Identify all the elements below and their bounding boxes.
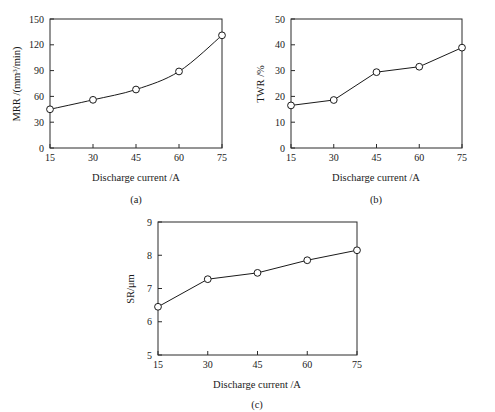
x-ticklabel: 45: [253, 359, 263, 370]
data-point: [373, 69, 380, 76]
x-ticklabel: 75: [352, 359, 362, 370]
data-point: [133, 86, 140, 93]
y-ticklabels-c: 56789: [147, 217, 152, 361]
x-ticklabel: 60: [414, 152, 424, 163]
data-point: [330, 97, 337, 104]
data-point: [204, 276, 211, 283]
y-axis-title-c: SR/μm: [125, 274, 136, 304]
caption-c: (c): [251, 399, 263, 411]
y-ticklabel: 30: [34, 117, 44, 128]
y-ticklabel: 9: [147, 217, 152, 228]
x-ticks-b: [291, 144, 462, 148]
axes-frame-a: [50, 19, 222, 148]
y-ticks-b: [291, 19, 295, 148]
caption-a: (a): [130, 194, 142, 206]
x-ticklabel: 30: [329, 152, 339, 163]
y-ticklabel: 8: [147, 250, 152, 261]
x-ticklabel: 15: [45, 152, 55, 163]
y-ticklabel: 150: [29, 14, 44, 25]
data-point: [176, 68, 183, 75]
data-point: [304, 257, 311, 264]
x-axis-title-c: Discharge current /A: [213, 379, 301, 390]
plot-area-c: [155, 222, 361, 355]
x-ticklabel: 15: [153, 359, 163, 370]
y-ticklabel: 10: [275, 117, 285, 128]
y-ticklabel: 120: [29, 39, 44, 50]
data-curve-c: [158, 250, 357, 307]
data-point: [155, 303, 162, 310]
x-ticklabel: 75: [457, 152, 467, 163]
y-ticklabels-a: 0306090120150: [29, 14, 44, 154]
x-ticklabel: 60: [302, 359, 312, 370]
data-point: [416, 63, 423, 70]
data-curve-b: [291, 48, 462, 106]
y-axis-title-b: TWR /%: [255, 65, 266, 103]
x-ticklabel: 45: [131, 152, 141, 163]
data-curve-a: [50, 35, 222, 109]
data-markers-b: [288, 44, 466, 109]
y-ticks-a: [50, 19, 54, 148]
y-ticklabel: 5: [147, 350, 152, 361]
y-ticks-c: [158, 222, 162, 355]
y-ticklabels-b: 01020304050: [275, 14, 285, 154]
y-ticklabel: 0: [39, 143, 44, 154]
plot-area-b: [288, 19, 466, 148]
y-ticklabel: 30: [275, 65, 285, 76]
y-ticklabel: 40: [275, 39, 285, 50]
axes-frame-c: [158, 222, 357, 355]
y-ticklabel: 6: [147, 316, 152, 327]
subplot-c: 56789 1530456075 Discharge current /A SR…: [120, 208, 375, 412]
x-ticks-c: [158, 351, 357, 355]
x-axis-title-a: Discharge current /A: [92, 172, 180, 183]
x-ticklabels-c: 1530456075: [153, 359, 362, 370]
chart-c: 56789 1530456075 Discharge current /A SR…: [120, 208, 375, 412]
data-point: [254, 269, 261, 276]
axes-frame-b: [291, 19, 462, 148]
x-ticklabel: 15: [286, 152, 296, 163]
figure-container: 0306090120150 1530456075 Discharge curre…: [0, 0, 495, 412]
data-point: [288, 102, 295, 109]
y-ticklabel: 0: [280, 143, 285, 154]
caption-b: (b): [370, 194, 383, 206]
x-ticks-a: [50, 144, 222, 148]
y-ticklabel: 60: [34, 91, 44, 102]
x-axis-title-b: Discharge current /A: [332, 172, 420, 183]
data-point: [219, 32, 226, 39]
y-ticklabel: 7: [147, 283, 152, 294]
x-ticklabel: 60: [174, 152, 184, 163]
x-ticklabels-b: 1530456075: [286, 152, 467, 163]
data-point: [354, 247, 361, 254]
x-ticklabel: 45: [372, 152, 382, 163]
data-point: [459, 44, 466, 51]
chart-a: 0306090120150 1530456075 Discharge curre…: [0, 0, 248, 210]
data-point: [47, 106, 54, 113]
y-ticklabel: 20: [275, 91, 285, 102]
x-ticklabel: 30: [203, 359, 213, 370]
subplot-b: 01020304050 1530456075 Discharge current…: [248, 0, 495, 210]
y-axis-title-a: MRR /(mm3/min): [11, 46, 23, 121]
data-markers-a: [47, 32, 226, 113]
data-markers-c: [155, 247, 361, 310]
subplot-a: 0306090120150 1530456075 Discharge curre…: [0, 0, 248, 210]
y-ticklabel: 50: [275, 14, 285, 25]
x-ticklabels-a: 1530456075: [45, 152, 227, 163]
plot-area-a: [47, 19, 226, 148]
x-ticklabel: 75: [217, 152, 227, 163]
data-point: [90, 96, 97, 103]
x-ticklabel: 30: [88, 152, 98, 163]
y-ticklabel: 90: [34, 65, 44, 76]
chart-b: 01020304050 1530456075 Discharge current…: [248, 0, 495, 210]
